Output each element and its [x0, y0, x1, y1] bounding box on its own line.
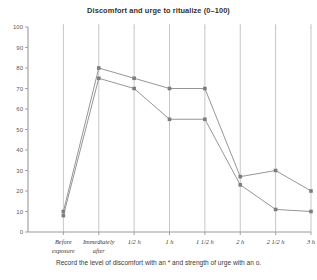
- y-tick-label: 0: [20, 229, 24, 235]
- x-tick-label: Before: [55, 238, 72, 245]
- data-point: [168, 117, 172, 121]
- data-point: [203, 87, 207, 91]
- data-point: [238, 183, 242, 187]
- data-point: [274, 208, 278, 212]
- x-tick-label: 3 h: [306, 238, 315, 245]
- y-axis-ticks: [25, 24, 311, 235]
- data-point: [97, 66, 101, 70]
- x-tick-label: 1 h: [166, 238, 174, 245]
- data-point: [203, 117, 207, 121]
- data-point: [62, 214, 66, 218]
- series-line-2: [63, 78, 311, 215]
- y-tick-label: 70: [16, 86, 23, 92]
- vertical-gridlines: [63, 27, 311, 232]
- x-axis-labels: BeforeexposureImmediatelyafter1/2 h1 h1 …: [52, 238, 315, 254]
- x-tick-label: 2 1/2 h: [267, 238, 285, 245]
- y-tick-label: 50: [16, 127, 23, 133]
- data-point: [97, 76, 101, 80]
- data-series-layer: [62, 66, 313, 217]
- y-tick-label: 40: [16, 147, 23, 153]
- y-tick-label: 90: [16, 45, 23, 51]
- chart-caption: Record the level of discomfort with an *…: [0, 259, 317, 266]
- x-tick-label: 1/2 h: [128, 238, 141, 245]
- y-tick-label: 30: [16, 168, 23, 174]
- x-tick-label: 2 h: [236, 238, 244, 245]
- y-tick-label: 60: [16, 106, 23, 112]
- data-point: [309, 210, 313, 214]
- x-tick-label: Immediately: [82, 238, 115, 245]
- data-point: [238, 175, 242, 179]
- data-point: [132, 76, 136, 80]
- data-point: [309, 189, 313, 193]
- series-line-1: [63, 68, 311, 212]
- y-tick-label: 10: [16, 209, 23, 215]
- data-point: [132, 87, 136, 91]
- x-tick-label: after: [93, 247, 106, 254]
- data-point: [274, 169, 278, 173]
- x-tick-label: 1 1/2 h: [196, 238, 214, 245]
- chart-container: Discomfort and urge to ritualize (0–100)…: [0, 0, 317, 280]
- x-tick-label: exposure: [52, 247, 75, 254]
- y-tick-label: 100: [13, 24, 24, 30]
- y-tick-label: 80: [16, 65, 23, 71]
- y-axis-labels: 0102030405060708090100: [13, 24, 24, 235]
- data-point: [168, 87, 172, 91]
- chart-plot-area: 0102030405060708090100 BeforeexposureImm…: [0, 0, 317, 280]
- y-tick-label: 20: [16, 188, 23, 194]
